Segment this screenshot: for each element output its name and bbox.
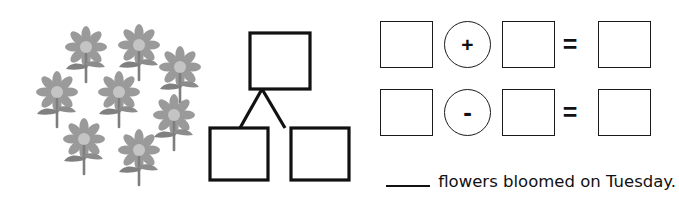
addition-addend2-box[interactable] [502,21,555,68]
number-bond-total-box[interactable] [250,33,310,89]
subtraction-equation: - = [380,83,670,141]
addition-equation: + = [380,15,670,73]
worksheet-page: + = - = flowers bloomed on Tuesday. [0,0,679,216]
flower-illustration-group [0,0,215,216]
number-bond-connector-right [262,89,285,128]
minus-icon: - [444,89,491,136]
flower-icon [110,128,168,190]
number-bond-part-box-right[interactable] [291,128,349,180]
subtraction-minuend-box[interactable] [380,89,433,136]
number-bond-diagram [200,20,360,192]
number-bond-connector-left [240,89,262,128]
flower-icon [55,117,113,179]
answer-sentence: flowers bloomed on Tuesday. [386,172,676,200]
subtraction-subtrahend-box[interactable] [502,89,555,136]
equals-sign: = [555,100,585,125]
answer-sentence-text: flowers bloomed on Tuesday. [438,172,676,191]
addition-sum-box[interactable] [598,21,651,68]
addition-addend1-box[interactable] [380,21,433,68]
equals-sign: = [555,32,585,57]
number-bond-part-box-left[interactable] [210,128,268,180]
equation-group: + = - = [380,10,670,150]
subtraction-difference-box[interactable] [598,89,651,136]
plus-icon: + [444,21,491,68]
answer-blank-input[interactable] [386,172,430,187]
